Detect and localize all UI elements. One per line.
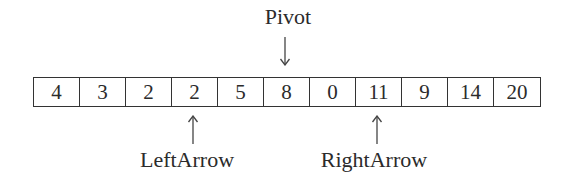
left-arrow-label: LeftArrow: [140, 149, 234, 171]
left-pointer-up-arrow-icon: [187, 115, 199, 144]
pivot-label: Pivot: [265, 6, 311, 28]
array-cell-5-pivot: 8: [264, 78, 310, 106]
array-cell-9: 14: [448, 78, 494, 106]
array-cell-4: 5: [218, 78, 264, 106]
array-cell-1: 3: [80, 78, 126, 106]
array-cell-2: 2: [126, 78, 172, 106]
right-pointer-up-arrow-icon: [371, 115, 383, 144]
array-cell-0: 4: [34, 78, 80, 106]
pivot-down-arrow-icon: [279, 37, 291, 66]
array-cell-8: 9: [402, 78, 448, 106]
right-arrow-label: RightArrow: [321, 149, 427, 171]
array-cell-10: 20: [494, 78, 540, 106]
array-cell-6: 0: [310, 78, 356, 106]
array-cell-7-right-pointer: 11: [356, 78, 402, 106]
array-row: 4 3 2 2 5 8 0 11 9 14 20: [33, 77, 541, 107]
quicksort-partition-diagram: Pivot 4 3 2 2 5 8 0 11 9 14 20 LeftArrow…: [0, 0, 568, 188]
array-cell-3-left-pointer: 2: [172, 78, 218, 106]
